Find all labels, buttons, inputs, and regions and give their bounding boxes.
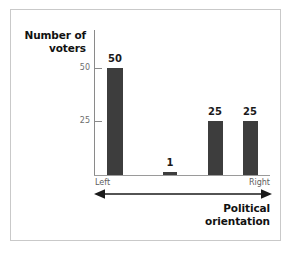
bar-3 [208,121,223,175]
bar-value-4: 25 [230,106,270,117]
y-tick-label-50: 50 [68,63,90,72]
y-tick-mark-25 [95,121,102,122]
y-axis-title: Number of voters [18,29,86,54]
x-axis-line [94,175,270,176]
y-axis-title-line-2: voters [18,42,86,55]
double-arrow-icon [92,187,274,201]
x-axis-title-line-2: orientation [160,215,270,228]
y-axis-title-line-1: Number of [18,29,86,42]
y-axis-line [94,30,95,176]
bar-2 [163,172,177,175]
x-axis-title: Political orientation [160,202,270,227]
x-label-right: Right [230,178,270,187]
bar-1 [107,68,123,175]
chart-figure: Number of voters 50 25 50 1 25 25 Left R… [0,0,293,253]
x-axis-title-line-1: Political [160,202,270,215]
bar-4 [243,121,258,175]
bar-value-3: 25 [195,106,235,117]
y-tick-label-25: 25 [68,116,90,125]
bar-value-1: 50 [95,53,135,64]
y-tick-mark-50 [95,68,102,69]
bar-value-2: 1 [150,157,190,168]
x-label-left: Left [95,178,135,187]
